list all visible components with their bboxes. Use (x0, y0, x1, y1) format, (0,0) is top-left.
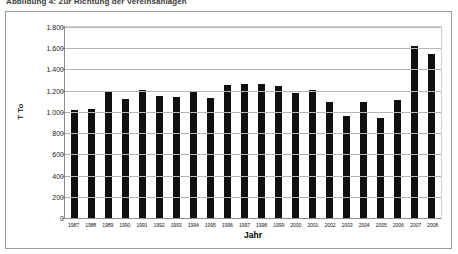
y-axis-tick-label: 200 (30, 193, 64, 200)
chart-plot-area: T To 1.8001.6001.4001.2001.0008006004002… (6, 12, 451, 248)
y-axis-tick-mark (62, 197, 65, 198)
y-axis-tick-label: 600 (30, 151, 64, 158)
x-axis-tick-label: 2005 (373, 220, 390, 230)
bar-slot (151, 27, 168, 218)
y-axis-tick-mark (62, 112, 65, 113)
x-axis-tick-labels: 1987198819891990199119921993199419951996… (64, 220, 442, 230)
bar (156, 96, 163, 218)
y-axis-tick-label: 0 (30, 215, 64, 222)
x-axis-tick-label: 1987 (65, 220, 82, 230)
y-axis-tick-label: 1.400 (30, 66, 64, 73)
x-axis-tick-label: 1993 (168, 220, 185, 230)
y-axis-tick-mark (62, 133, 65, 134)
x-axis-label: Jahr (64, 230, 442, 240)
x-axis-tick-label: 1998 (253, 220, 270, 230)
bar-slot (83, 27, 100, 218)
x-axis-tick-label: 2004 (356, 220, 373, 230)
y-axis-tick-label: 400 (30, 172, 64, 179)
bar-slot (253, 27, 270, 218)
bar (411, 46, 418, 218)
bar (88, 109, 95, 218)
bar (360, 102, 367, 218)
bar (71, 110, 78, 218)
y-axis-tick-mark (62, 154, 65, 155)
x-axis-tick-label: 1988 (82, 220, 99, 230)
gridline (65, 154, 441, 155)
gridline (65, 27, 441, 28)
bar (241, 84, 248, 218)
bar-slot (355, 27, 372, 218)
y-axis-tick-mark (62, 48, 65, 49)
x-axis-tick-label: 1991 (133, 220, 150, 230)
x-axis-tick-label: 1992 (150, 220, 167, 230)
x-axis-tick-label: 2000 (287, 220, 304, 230)
bar-series (65, 27, 441, 218)
y-axis-tick-mark (62, 176, 65, 177)
bar-slot (372, 27, 389, 218)
bar-slot (287, 27, 304, 218)
chart-axes (64, 26, 442, 219)
gridline (65, 91, 441, 92)
bar-slot (321, 27, 338, 218)
bar-slot (423, 27, 440, 218)
x-axis-tick-label: 2001 (304, 220, 321, 230)
y-axis-tick-label: 1.800 (30, 24, 64, 31)
x-axis-tick-label: 2002 (321, 220, 338, 230)
x-axis-tick-label: 2006 (390, 220, 407, 230)
bar-slot (117, 27, 134, 218)
y-axis-tick-labels: 1.8001.6001.4001.2001.0008006004002000 (24, 12, 64, 248)
bar-slot (219, 27, 236, 218)
bar (224, 85, 231, 218)
y-axis-tick-label: 1.600 (30, 45, 64, 52)
x-axis-tick-label: 1994 (185, 220, 202, 230)
bar-slot (389, 27, 406, 218)
y-axis-tick-mark (62, 27, 65, 28)
bar (326, 102, 333, 218)
x-axis-tick-label: 1990 (116, 220, 133, 230)
bar-slot (100, 27, 117, 218)
x-axis-tick-label: 2008 (424, 220, 441, 230)
bar-slot (185, 27, 202, 218)
bar (394, 100, 401, 218)
gridline (65, 69, 441, 70)
bar-slot (236, 27, 253, 218)
bar-slot (406, 27, 423, 218)
bar (343, 116, 350, 218)
bar (122, 99, 129, 218)
gridline (65, 48, 441, 49)
bar (428, 54, 435, 218)
bar-slot (66, 27, 83, 218)
gridline (65, 197, 441, 198)
bar-slot (338, 27, 355, 218)
x-axis-tick-label: 1999 (270, 220, 287, 230)
y-axis-tick-label: 1.000 (30, 108, 64, 115)
bar (207, 98, 214, 218)
bar-slot (304, 27, 321, 218)
y-axis-tick-mark (62, 69, 65, 70)
x-axis-tick-label: 1995 (202, 220, 219, 230)
gridline (65, 176, 441, 177)
x-axis-tick-label: 1989 (99, 220, 116, 230)
bar-slot (202, 27, 219, 218)
bar (258, 84, 265, 218)
y-axis-tick-mark (62, 91, 65, 92)
y-axis-tick-label: 800 (30, 130, 64, 137)
bar-slot (134, 27, 151, 218)
figure-frame: T To 1.8001.6001.4001.2001.0008006004002… (5, 11, 452, 249)
bar (275, 86, 282, 218)
bar-slot (270, 27, 287, 218)
gridline (65, 112, 441, 113)
x-axis-tick-label: 2007 (407, 220, 424, 230)
x-axis-tick-label: 1996 (219, 220, 236, 230)
y-axis-tick-label: 1.200 (30, 87, 64, 94)
gridline (65, 133, 441, 134)
x-axis-tick-label: 1997 (236, 220, 253, 230)
x-axis-tick-label: 2003 (339, 220, 356, 230)
bar-slot (168, 27, 185, 218)
y-axis-tick-mark (62, 218, 65, 219)
bar (173, 97, 180, 218)
figure-caption: Abbildung 4: Zur Richtung der Vereinsanl… (6, 0, 446, 8)
